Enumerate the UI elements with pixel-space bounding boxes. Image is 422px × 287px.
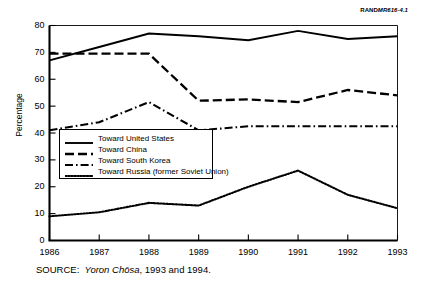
source-years: , 1993 and 1994. bbox=[140, 264, 211, 275]
y-tick-label: 60 bbox=[23, 75, 45, 84]
x-tick-label: 1989 bbox=[179, 248, 219, 257]
y-tick-label: 40 bbox=[23, 129, 45, 138]
legend-swatch-dotted-icon bbox=[65, 167, 93, 177]
legend-label: Toward China bbox=[98, 145, 147, 154]
x-tick-label: 1992 bbox=[328, 248, 368, 257]
legend-label: Toward Russia (former Soviet Union) bbox=[98, 167, 229, 176]
legend-swatch-solid-icon bbox=[65, 134, 93, 144]
y-tick-label: 20 bbox=[23, 182, 45, 191]
series-line-0 bbox=[50, 31, 398, 61]
source-publication: Yoron Chōsa bbox=[85, 264, 140, 275]
y-tick-label: 70 bbox=[23, 48, 45, 57]
y-tick-label: 30 bbox=[23, 155, 45, 164]
legend-item: Toward South Korea bbox=[65, 155, 212, 166]
source-note: SOURCE: Yoron Chōsa, 1993 and 1994. bbox=[36, 264, 211, 275]
x-tick-label: 1990 bbox=[228, 248, 268, 257]
legend-label: Toward United States bbox=[98, 134, 174, 143]
legend-swatch-dashdot-icon bbox=[65, 156, 93, 166]
series-line-2 bbox=[50, 102, 398, 130]
chart-legend: Toward United StatesToward ChinaToward S… bbox=[59, 129, 213, 179]
y-tick-label: 10 bbox=[23, 209, 45, 218]
y-tick-label: 0 bbox=[23, 236, 45, 245]
legend-item: Toward China bbox=[65, 144, 212, 155]
legend-item: Toward Russia (former Soviet Union) bbox=[65, 166, 212, 177]
x-tick-label: 1991 bbox=[278, 248, 318, 257]
source-prefix: SOURCE: bbox=[36, 264, 79, 275]
x-tick-label: 1988 bbox=[129, 248, 169, 257]
y-tick-label: 50 bbox=[23, 102, 45, 111]
legend-label: Toward South Korea bbox=[98, 156, 171, 165]
legend-item: Toward United States bbox=[65, 133, 212, 144]
x-tick-label: 1986 bbox=[30, 248, 70, 257]
series-line-1 bbox=[50, 54, 398, 102]
series-layer bbox=[50, 31, 398, 216]
legend-swatch-dashed-icon bbox=[65, 145, 93, 155]
figure-container: RANDMR616-4.1 Percentage 010203040506070… bbox=[0, 0, 422, 287]
x-tick-label: 1993 bbox=[378, 248, 418, 257]
x-tick-label: 1987 bbox=[79, 248, 119, 257]
y-tick-label: 80 bbox=[23, 21, 45, 30]
